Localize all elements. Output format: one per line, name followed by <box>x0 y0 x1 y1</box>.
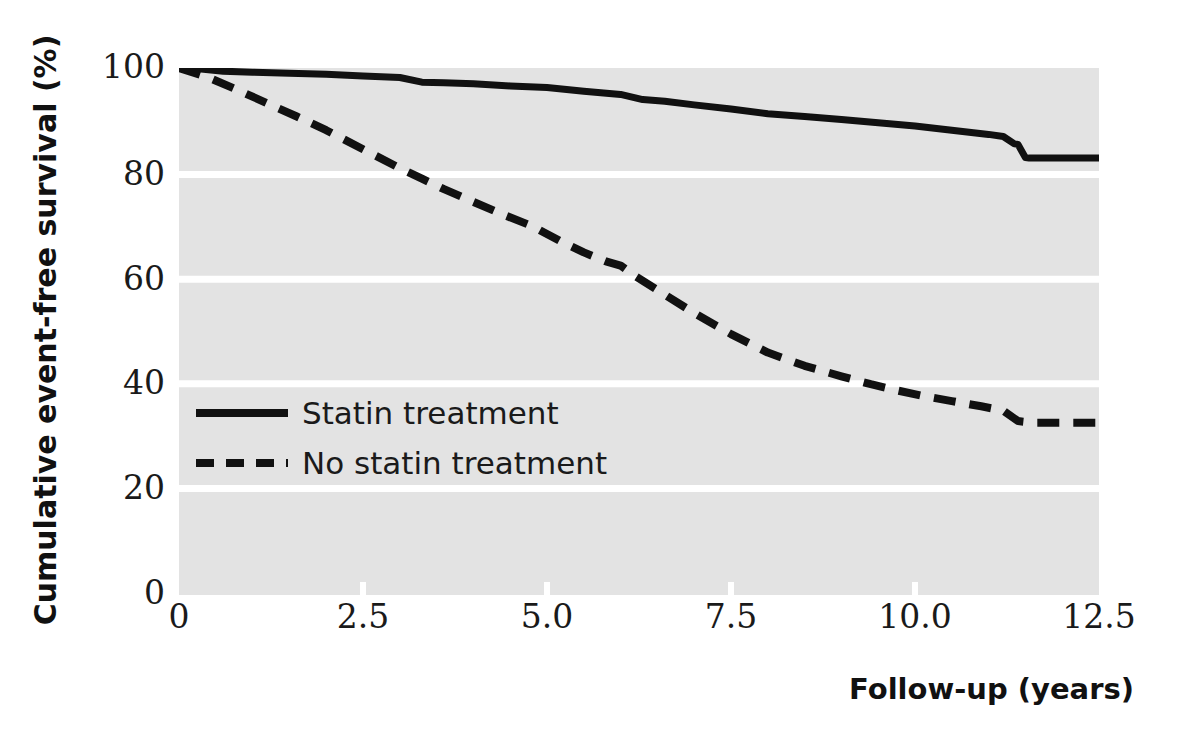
x-tick-label-7-5: 7.5 <box>671 600 791 633</box>
plot-background <box>179 68 1099 595</box>
y-tick-label-100: 100 <box>75 50 165 83</box>
y-tick-label-80: 80 <box>75 157 165 190</box>
x-tick-label-12-5: 12.5 <box>1039 600 1159 633</box>
legend-key-dashed-line-icon <box>196 459 288 467</box>
legend-label-statin-treatment: Statin treatment <box>302 395 559 431</box>
y-tick-label-60: 60 <box>75 262 165 295</box>
x-tick-label-2-5: 2.5 <box>303 600 423 633</box>
x-tick-label-10-0: 10.0 <box>855 600 975 633</box>
y-tick-label-20: 20 <box>75 471 165 504</box>
x-axis-title: Follow-up (years) <box>849 672 1134 706</box>
survival-chart-figure: Cumulative event-free survival (%) 100 8… <box>0 0 1189 749</box>
y-tick-label-40: 40 <box>75 366 165 399</box>
y-axis-title: Cumulative event-free survival (%) <box>28 35 63 626</box>
y-tick-labels: 100 80 60 40 20 0 <box>70 0 165 749</box>
x-tick-label-0: 0 <box>119 600 239 633</box>
legend-item-statin-treatment: Statin treatment <box>196 388 626 438</box>
legend-item-no-statin-treatment: No statin treatment <box>196 438 626 488</box>
legend-key-solid-line-icon <box>196 409 288 417</box>
plot-canvas <box>0 0 1189 749</box>
x-tick-label-5-0: 5.0 <box>487 600 607 633</box>
legend-label-no-statin-treatment: No statin treatment <box>302 445 607 481</box>
chart-legend: Statin treatment No statin treatment <box>196 388 626 488</box>
